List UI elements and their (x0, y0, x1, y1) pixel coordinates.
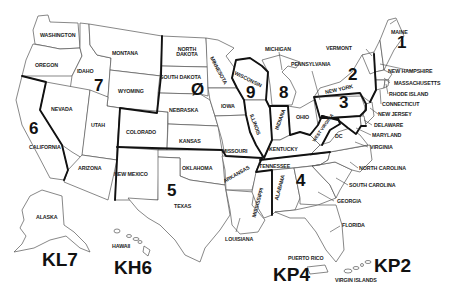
state-label-maine: MAINE (391, 30, 408, 35)
state-label-idaho: IDAHO (77, 69, 94, 74)
state-alaska (14, 190, 90, 252)
state-label-maryland: MARYLAND (372, 133, 401, 138)
state-label-utah: UTAH (91, 123, 105, 128)
state-label-kentucky: KENTUCKY (269, 147, 298, 152)
district-7-label: 7 (94, 77, 103, 94)
district-2-label: 2 (348, 66, 357, 83)
state-florida (275, 205, 344, 262)
state-label-kansas: KANSAS (179, 139, 201, 144)
state-puerto-rico (307, 265, 328, 274)
state-label-florida: FLORIDA (342, 223, 365, 228)
state-label-ohio: OHIO (296, 115, 309, 120)
state-label-south-carolina: SOUTH CAROLINA (349, 183, 396, 188)
state-label-colorado: COLORADO (126, 130, 156, 135)
prefix-puerto-rico: KP4 (273, 265, 310, 284)
state-label-iowa: IOWA (221, 104, 235, 109)
state-label-oregon: OREGON (35, 63, 58, 68)
state-label-new-mexico: NEW MEXICO (114, 172, 148, 177)
district-6-label: 6 (29, 120, 38, 137)
state-label-oklahoma: OKLAHOMA (182, 166, 212, 171)
state-virgin-islands (344, 261, 371, 274)
state-label-wyoming: WYOMING (118, 89, 144, 94)
state-label-north-dakota: NORTHDAKOTA (170, 47, 204, 58)
state-label-connecticut: CONNECTICUT (382, 102, 419, 107)
prefix-alaska: KL7 (42, 250, 78, 269)
state-label-new-hampshire: NEW HAMPSHIRE (388, 69, 432, 74)
state-label-nevada: NEVADA (51, 107, 72, 112)
state-label-louisiana: LOUISIANA (225, 237, 253, 242)
district-3-label: 3 (339, 94, 348, 111)
state-label-arizona: ARIZONA (78, 166, 101, 171)
state-label-pennsylvania: PENNSYLVANIA (291, 62, 331, 67)
district-9-label: 9 (246, 84, 255, 101)
state-label-tennessee: TENNESSEE (259, 164, 290, 169)
state-label-california: CALIFORNIA (29, 145, 61, 150)
district-0-label: Ø (191, 81, 204, 98)
state-connecticut (376, 80, 385, 90)
state-label-delaware: DELAWARE (374, 123, 403, 128)
district-8-label: 8 (279, 84, 288, 101)
state-label-north-carolina: NORTH CAROLINA (359, 166, 406, 171)
state-label-vermont: VERMONT (326, 46, 352, 51)
state-label-texas: TEXAS (174, 204, 191, 209)
prefix-hawaii: KH6 (114, 258, 152, 277)
state-label-georgia: GEORGIA (337, 199, 361, 204)
state-label-missouri: MISSOURI (222, 149, 247, 154)
district-5-label: 5 (167, 182, 176, 199)
state-label-puerto-rico: PUERTO RICO (288, 256, 324, 261)
state-label-alaska: ALASKA (36, 215, 57, 220)
state-label-washington: WASHINGTON (40, 33, 75, 38)
state-label-hawaii: HAWAII (112, 244, 130, 249)
state-label-rhode-island: RHODE ISLAND (389, 92, 428, 97)
state-label-virgin-islands: VIRGIN ISLANDS (335, 278, 377, 283)
state-label-montana: MONTANA (112, 51, 138, 56)
district-4-label: 4 (296, 172, 305, 189)
district-1-label: 1 (397, 34, 406, 51)
state-label-virginia: VIRGINIA (370, 145, 393, 150)
state-label-nebraska: NEBRASKA (169, 108, 198, 113)
state-arizona (64, 155, 117, 200)
state-label-michigan: MICHIGAN (265, 47, 291, 52)
prefix-virgin-islands: KP2 (374, 256, 411, 275)
state-oregon (22, 44, 82, 76)
state-kansas (167, 124, 222, 150)
state-label-dc: DC (335, 134, 342, 139)
state-label-massachusetts: MASSACHUSETTS (394, 81, 440, 86)
state-label-south-dakota: SOUTH DAKOTA (160, 75, 201, 80)
state-label-new-jersey: NEW JERSEY (378, 112, 412, 117)
